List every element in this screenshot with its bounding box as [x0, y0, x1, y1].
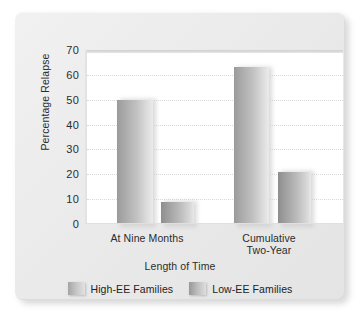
x-axis-baseline: [85, 223, 343, 224]
chart-figure: 70 60 50 40 30 20 10 0 Percentage Relaps…: [0, 0, 363, 318]
x-tick-at-nine-months: At Nine Months: [87, 232, 207, 244]
plot-left-border: [85, 50, 87, 224]
bar-low-ee-cumulative[interactable]: [278, 172, 311, 224]
chart-legend: High-EE Families Low-EE Families: [15, 282, 345, 295]
y-tick-0: 0: [33, 219, 79, 230]
bar-high-ee-nine-months[interactable]: [117, 100, 153, 224]
bar-low-ee-nine-months[interactable]: [161, 202, 194, 224]
legend-label-high-ee: High-EE Families: [91, 283, 174, 295]
x-tick-at-nine-months-line1: At Nine Months: [87, 232, 207, 244]
x-axis-label: Length of Time: [15, 260, 345, 272]
x-tick-cumulative-two-year-line2: Two-Year: [209, 244, 329, 256]
plot-top-border: [85, 50, 343, 53]
legend-item-high-ee[interactable]: High-EE Families: [68, 282, 174, 295]
gridline-60: [87, 75, 343, 76]
legend-swatch-high-ee-icon: [68, 282, 85, 295]
x-tick-cumulative-two-year: Cumulative Two-Year: [209, 232, 329, 256]
legend-item-low-ee[interactable]: Low-EE Families: [189, 282, 292, 295]
x-tick-cumulative-two-year-line1: Cumulative: [209, 232, 329, 244]
chart-panel: 70 60 50 40 30 20 10 0 Percentage Relaps…: [15, 12, 345, 300]
legend-swatch-low-ee-icon: [189, 282, 206, 295]
bar-high-ee-cumulative[interactable]: [234, 67, 269, 224]
y-tick-10: 10: [33, 194, 79, 205]
legend-label-low-ee: Low-EE Families: [212, 283, 292, 295]
y-axis-label: Percentage Relapse: [39, 32, 51, 172]
plot-area: [85, 50, 343, 224]
